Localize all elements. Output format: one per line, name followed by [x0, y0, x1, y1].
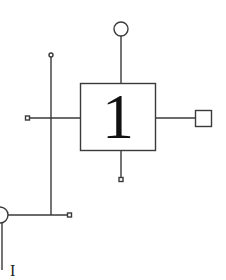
block-number-label: 1 — [80, 83, 156, 151]
bottom-terminal-square-icon[interactable] — [119, 178, 123, 182]
left-terminal-square-icon[interactable] — [26, 116, 30, 120]
right-terminal-square-icon[interactable] — [196, 111, 212, 127]
bus-left-terminal-circle-icon[interactable] — [0, 207, 8, 223]
bus-top-terminal-circle-icon[interactable] — [49, 53, 53, 57]
footer-text-partial: I — [10, 262, 17, 280]
top-terminal-circle-icon[interactable] — [114, 22, 128, 36]
bus-right-terminal-square-icon[interactable] — [68, 213, 72, 217]
